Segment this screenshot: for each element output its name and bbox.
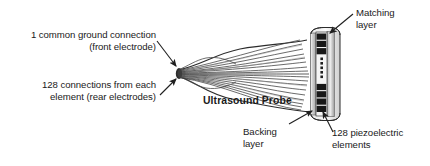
- ground-connection-arrow: [157, 41, 176, 66]
- label-backing-layer: Backing layer: [243, 126, 277, 149]
- matching-layer-strip: [327, 32, 335, 117]
- matching-layer-arrow: [330, 14, 353, 33]
- cable-tip: [176, 68, 186, 79]
- label-ultrasound-probe: Ultrasound Probe: [203, 95, 292, 107]
- probe-head: [311, 28, 341, 121]
- backing-layer-arrow: [289, 111, 312, 124]
- ultrasound-probe-figure: 1 common ground connection (front electr…: [0, 0, 430, 166]
- label-matching-layer: Matching layer: [356, 7, 395, 30]
- backing-layer-strip: [311, 33, 317, 115]
- label-ground-connection: 1 common ground connection (front electr…: [8, 29, 156, 52]
- element-connections-arrow: [160, 79, 176, 95]
- label-element-connections: 128 connections from each element (rear …: [8, 79, 156, 102]
- label-piezoelectric-elements: 128 piezoelectric elements: [332, 127, 403, 150]
